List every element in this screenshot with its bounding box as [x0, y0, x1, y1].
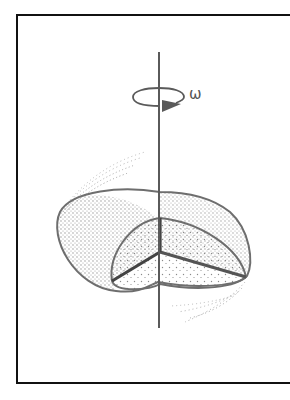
ellipsoid-figure: [0, 0, 290, 400]
angular-velocity-label: ω: [189, 87, 202, 102]
